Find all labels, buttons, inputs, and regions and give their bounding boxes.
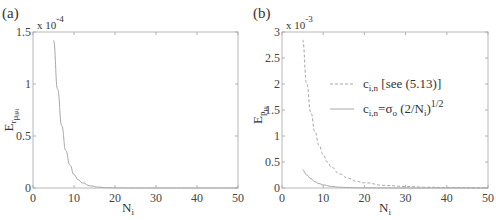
panel-b: (b) 0102030405000.511.522.53 x 10-3 Ni E… xyxy=(250,5,494,217)
legend-b: ci,n [see (5.13)] ci,n=σo (2/Ni)1/2 xyxy=(330,76,444,118)
y-tick-label: 1 xyxy=(274,129,280,143)
ylabel-a: Erμiμi xyxy=(1,108,20,131)
x-tick-label: 40 xyxy=(441,191,453,205)
panel-b-label: (b) xyxy=(253,5,271,22)
plot-a-frame xyxy=(33,32,238,188)
y-tick-label: 0.5 xyxy=(16,129,31,143)
xlabel-b: Ni xyxy=(379,200,391,217)
panel-a: (a) 0102030405000.511.5 x 10-4 Ni Erμiμi xyxy=(1,5,244,217)
solid-curve xyxy=(54,40,239,188)
x-tick-label: 40 xyxy=(191,191,203,205)
x-tick-label: 20 xyxy=(109,191,121,205)
solid-curve xyxy=(303,170,488,188)
panel-a-label: (a) xyxy=(2,5,19,22)
scale-a: x 10-4 xyxy=(37,14,64,31)
x-tick-label: 50 xyxy=(232,191,244,205)
x-tick-label: 10 xyxy=(317,191,329,205)
x-tick-label: 30 xyxy=(400,191,412,205)
x-tick-label: 30 xyxy=(150,191,162,205)
y-tick-label: 0 xyxy=(25,181,31,195)
legend-item-2: ci,n=σo (2/Ni)1/2 xyxy=(363,98,444,118)
y-tick-label: 0 xyxy=(274,181,280,195)
legend-item-1: ci,n [see (5.13)] xyxy=(363,76,441,93)
y-tick-label: 2 xyxy=(274,77,280,91)
y-tick-label: 3 xyxy=(274,25,280,39)
ylabel-b: Epμi xyxy=(250,106,269,124)
y-tick-label: 1.5 xyxy=(16,25,31,39)
y-tick-label: 1 xyxy=(25,77,31,91)
xlabel-a: Ni xyxy=(122,200,134,217)
x-tick-label: 10 xyxy=(68,191,80,205)
x-tick-label: 20 xyxy=(358,191,370,205)
plot-a-curves xyxy=(54,40,239,188)
scale-b: x 10-3 xyxy=(286,14,313,31)
y-tick-label: 0.5 xyxy=(265,155,280,169)
x-tick-label: 50 xyxy=(482,191,494,205)
figure: (a) 0102030405000.511.5 x 10-4 Ni Erμiμi… xyxy=(0,0,496,220)
y-tick-label: 2.5 xyxy=(265,51,280,65)
plot-a-ticks: 0102030405000.511.5 xyxy=(16,25,244,205)
